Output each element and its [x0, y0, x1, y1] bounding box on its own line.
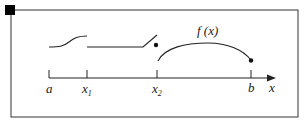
tick-label-a: a — [46, 81, 53, 96]
tick-label-x1: x1 — [81, 81, 92, 98]
piece-2-curve — [87, 35, 157, 47]
function-label: f (x) — [197, 23, 218, 38]
tick-label-x2: x2 — [151, 81, 162, 98]
diagram-frame — [11, 10, 298, 117]
piece-3-arc — [158, 43, 251, 61]
corner-marker-icon — [5, 5, 15, 15]
axis-label-x: x — [268, 80, 275, 95]
piece-1-curve — [49, 36, 87, 47]
endpoint-b — [249, 58, 253, 62]
piecewise-function-diagram: a x1 x2 b x f (x) — [0, 0, 305, 123]
tick-label-b: b — [248, 80, 255, 95]
isolated-point-x2 — [154, 43, 158, 47]
